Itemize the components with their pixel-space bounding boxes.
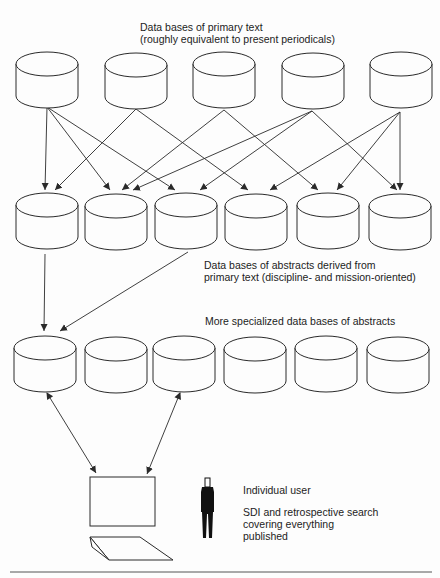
search-description-line1: SDI and retrospective search	[243, 506, 378, 518]
database-cylinder-icon	[367, 337, 429, 393]
flow-arrow	[44, 254, 45, 331]
flow-arrow	[55, 109, 136, 190]
flow-arrow	[312, 111, 397, 190]
primary-databases-subtitle: (roughly equivalent to present periodica…	[140, 33, 335, 45]
specialized-databases-label: More specialized data bases of abstracts	[205, 315, 395, 327]
bidirectional-arrow	[147, 393, 180, 474]
primary-databases-title: Data bases of primary text	[140, 21, 263, 33]
database-cylinder-icon	[295, 336, 357, 392]
database-cylinder-icon	[297, 193, 359, 249]
bidirectional-arrow	[47, 393, 96, 473]
database-cylinder-icon	[225, 194, 287, 250]
database-cylinder-icon	[85, 337, 147, 393]
individual-user-label: Individual user	[243, 484, 311, 496]
flow-arrow	[133, 111, 312, 190]
flow-arrow	[136, 109, 248, 190]
database-cylinder-icon	[282, 53, 344, 109]
database-cylinder-icon	[14, 336, 76, 392]
individual-user-figure-icon	[201, 478, 214, 538]
database-cylinder-icon	[85, 194, 147, 250]
database-cylinder-icon	[105, 53, 167, 109]
terminal	[90, 477, 173, 560]
keyboard-icon	[90, 537, 173, 560]
flow-arrow	[337, 112, 400, 190]
flow-arrow	[224, 110, 318, 190]
flow-arrow	[122, 110, 224, 190]
flow-arrow	[60, 252, 188, 331]
database-cylinder-icon	[16, 52, 78, 108]
search-description-line3: published	[243, 530, 288, 542]
arrows-layer	[44, 107, 400, 474]
database-cylinder-icon	[193, 52, 255, 108]
terminal-screen-icon	[90, 477, 155, 526]
flow-arrow	[47, 107, 175, 190]
database-cylinder-icon	[224, 337, 286, 393]
search-description-line2: covering everything	[243, 518, 334, 530]
database-cylinder-icon	[370, 52, 432, 108]
database-hierarchy-diagram	[0, 0, 440, 578]
flow-arrow	[270, 112, 400, 190]
abstract-databases-label-line1: Data bases of abstracts derived from	[204, 259, 376, 271]
flow-arrow	[45, 107, 47, 190]
database-cylinder-icon	[153, 336, 215, 392]
abstract-databases-label-line2: primary text (discipline- and mission-or…	[204, 271, 416, 283]
database-cylinder-icon	[369, 194, 431, 250]
flow-arrow	[200, 111, 312, 190]
cylinders-layer	[14, 52, 432, 393]
database-cylinder-icon	[16, 193, 78, 249]
flow-arrow	[47, 107, 110, 190]
database-cylinder-icon	[155, 193, 217, 249]
